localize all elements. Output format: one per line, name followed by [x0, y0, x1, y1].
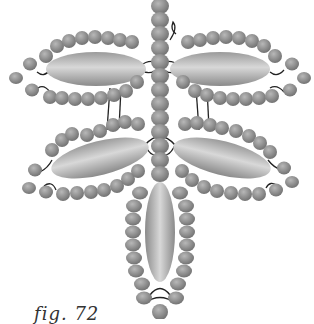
oval-bead	[145, 182, 175, 282]
figure-caption: fig. 72	[34, 305, 99, 323]
upper-left-leaf	[9, 30, 146, 106]
lower-right-leaf	[169, 116, 299, 201]
bottom-leaf	[125, 182, 195, 305]
upper-right-leaf	[170, 30, 311, 106]
lower-left-leaf	[22, 115, 153, 201]
